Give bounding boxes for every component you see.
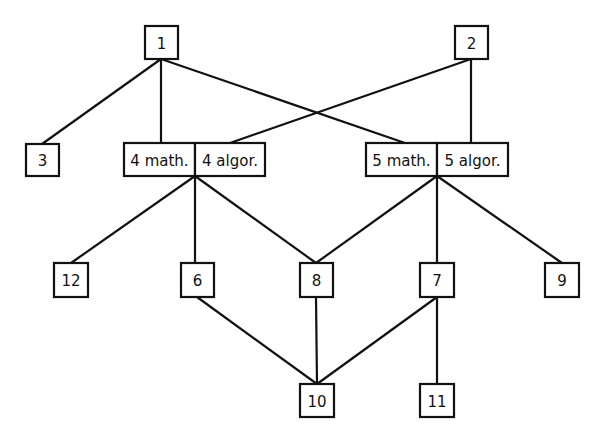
edge-1-to-5math	[161, 59, 405, 143]
node-8: 8	[300, 263, 333, 297]
node-4algor: 4 algor.	[195, 143, 265, 176]
node-label: 9	[557, 272, 567, 290]
node-5math: 5 math.	[366, 143, 437, 176]
nodes-layer: 1234 math.4 algor.5 math.5 algor.1268791…	[26, 26, 579, 417]
node-5algor: 5 algor.	[437, 143, 508, 176]
node-label: 5 algor.	[445, 152, 501, 170]
node-label: 4 algor.	[202, 152, 258, 170]
node-label: 6	[193, 272, 203, 290]
edge-1-to-3	[42, 59, 161, 144]
node-7: 7	[420, 263, 454, 297]
node-label: 2	[467, 35, 477, 53]
node-label: 3	[38, 152, 48, 170]
node-9: 9	[545, 263, 579, 297]
node-12: 12	[54, 263, 88, 297]
edge-6-to-10	[197, 297, 317, 384]
node-label: 4 math.	[130, 152, 188, 170]
node-label: 11	[427, 393, 446, 411]
node-label: 7	[432, 272, 442, 290]
node-10: 10	[300, 384, 334, 417]
edge-2-to-4algor	[230, 59, 471, 143]
node-label: 8	[312, 272, 322, 290]
node-1: 1	[145, 26, 178, 59]
node-3: 3	[26, 144, 59, 176]
edge-8-to-10	[316, 297, 317, 384]
dependency-graph: 1234 math.4 algor.5 math.5 algor.1268791…	[0, 0, 601, 441]
node-label: 1	[157, 35, 167, 53]
edges-layer	[42, 59, 562, 384]
edge-4-to-12	[71, 176, 195, 263]
node-6: 6	[181, 263, 214, 297]
edge-4-to-8	[195, 176, 316, 263]
node-label: 12	[61, 272, 80, 290]
node-11: 11	[420, 384, 454, 417]
edge-5-to-9	[437, 176, 562, 263]
node-2: 2	[455, 26, 488, 59]
node-label: 5 math.	[372, 152, 430, 170]
node-label: 10	[307, 393, 326, 411]
edge-7-to-10	[317, 297, 437, 384]
node-4math: 4 math.	[124, 143, 195, 176]
edge-5-to-8	[316, 176, 437, 263]
